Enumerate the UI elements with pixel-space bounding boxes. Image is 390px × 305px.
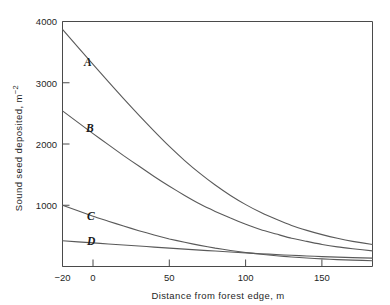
- curve-b: [63, 111, 373, 251]
- y-axis-label-text: Sound seed deposited, m−2: [11, 85, 24, 211]
- chart-figure: 4000 3000 2000 1000 −20 0 50 100 150 Dis…: [0, 0, 390, 305]
- curve-c: [63, 205, 373, 260]
- x-tick-label-150: 150: [314, 272, 330, 283]
- y-tick-label-3000: 3000: [36, 78, 57, 89]
- x-axis-label: Distance from forest edge, m: [151, 290, 284, 301]
- x-tick-label-minus20: −20: [54, 272, 70, 283]
- curve-label-b: B: [85, 122, 94, 134]
- plot-frame: [63, 22, 373, 267]
- plot-area: 4000 3000 2000 1000 −20 0 50 100 150 Dis…: [0, 0, 390, 305]
- x-tick-label-0: 0: [90, 272, 95, 283]
- y-axis-label-main: Sound seed deposited, m: [13, 94, 24, 211]
- curve-label-a: A: [83, 56, 92, 68]
- x-tick-label-100: 100: [238, 272, 254, 283]
- curve-label-d: D: [86, 235, 96, 247]
- x-tick-label-50: 50: [164, 272, 175, 283]
- y-axis-label-exponent: −2: [11, 85, 20, 94]
- curve-label-c: C: [87, 210, 95, 222]
- y-tick-label-2000: 2000: [36, 139, 57, 150]
- y-tick-label-1000: 1000: [36, 200, 57, 211]
- curve-d: [63, 241, 373, 258]
- y-axis-label: Sound seed deposited, m−2: [11, 85, 24, 211]
- y-tick-label-4000: 4000: [36, 16, 57, 27]
- x-axis-ticks: [63, 260, 322, 267]
